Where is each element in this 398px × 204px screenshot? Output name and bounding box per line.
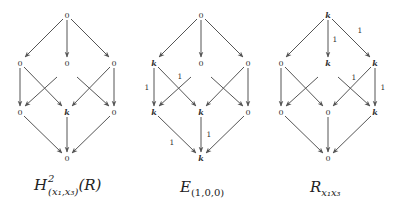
- arrow: [285, 67, 323, 106]
- node-l2-right: k: [372, 107, 378, 117]
- edge-label: 1: [145, 83, 150, 92]
- node-l2-middle: 0: [325, 108, 330, 117]
- caption-base: R: [310, 178, 321, 196]
- arrow: [286, 19, 324, 57]
- arrow: [25, 77, 57, 106]
- arrow: [25, 19, 63, 57]
- arrow: [205, 19, 243, 57]
- node-top: 0: [64, 11, 69, 20]
- node-top: k: [325, 10, 331, 20]
- arrow: [77, 77, 109, 106]
- node-l1-left: k: [151, 58, 157, 68]
- diagram-local-cohomology: 0 0 0 0 0 k 0 0: [17, 11, 116, 163]
- node-l1-right: 0: [111, 59, 116, 68]
- arrow: [24, 67, 62, 106]
- node-bottom: 0: [64, 154, 69, 163]
- caption-subscript: (x₁,x₃): [48, 187, 78, 197]
- caption-R-x1x3: Rx₁x₃: [310, 178, 341, 196]
- arrow: [285, 116, 323, 153]
- arrow: [159, 19, 197, 57]
- arrow: [211, 77, 243, 106]
- caption-subscript: (1,0,0): [191, 187, 224, 198]
- caption-E-100: E(1,0,0): [180, 178, 224, 196]
- node-l1-middle: 0: [198, 59, 203, 68]
- arrow: [24, 116, 62, 153]
- caption-tail: (R): [78, 176, 101, 194]
- edge-label: 1: [381, 83, 386, 92]
- edge-label: 1: [358, 26, 363, 35]
- diagram-R-x1x3: 1 1 1 1 k 0 k k 0 0 k 0: [278, 10, 385, 163]
- node-l1-left: 0: [278, 59, 283, 68]
- node-l1-middle: 0: [64, 59, 69, 68]
- node-l2-left: k: [151, 107, 157, 117]
- node-l2-left: 0: [17, 108, 22, 117]
- edge-label: 1: [352, 73, 357, 82]
- node-l1-middle: k: [325, 58, 331, 68]
- node-l1-right: k: [372, 58, 378, 68]
- caption-superscript: 2: [48, 174, 78, 184]
- node-top: 0: [198, 11, 203, 20]
- edge-label: 1: [333, 35, 338, 44]
- node-l2-right: 0: [245, 108, 250, 117]
- node-l2-middle: k: [198, 107, 204, 117]
- arrow: [333, 116, 371, 153]
- node-l1-right: 0: [245, 59, 250, 68]
- node-l1-left: 0: [17, 59, 22, 68]
- node-bottom: k: [198, 153, 204, 163]
- edge-label: 1: [170, 138, 175, 147]
- arrow: [286, 77, 318, 106]
- edge-label: 1: [207, 130, 212, 139]
- arrow: [206, 67, 244, 106]
- node-l2-left: 0: [278, 108, 283, 117]
- node-l2-middle: k: [64, 107, 70, 117]
- arrow: [159, 77, 191, 106]
- arrow: [206, 116, 244, 153]
- arrow: [158, 116, 196, 153]
- node-bottom: 0: [325, 154, 330, 163]
- arrow: [332, 19, 370, 57]
- caption-local-cohomology: H2(x₁,x₃)(R): [34, 176, 101, 196]
- caption-subscript: x₁x₃: [321, 187, 340, 198]
- caption-base: H: [34, 176, 47, 194]
- node-l2-right: 0: [111, 108, 116, 117]
- arrow: [71, 19, 109, 57]
- diagram-E-100: 1 1 1 1 0 k 0 0 k k 0 k: [145, 11, 251, 163]
- arrow: [72, 67, 110, 106]
- caption-base: E: [180, 178, 191, 196]
- arrow: [72, 116, 110, 153]
- edge-label: 1: [178, 72, 183, 81]
